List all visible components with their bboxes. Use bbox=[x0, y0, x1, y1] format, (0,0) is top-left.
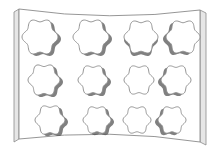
panel-right-edge bbox=[200, 10, 206, 145]
panel-illustration bbox=[0, 0, 219, 153]
curved-panel-drawing bbox=[0, 0, 219, 153]
panel-left-edge bbox=[14, 9, 19, 142]
